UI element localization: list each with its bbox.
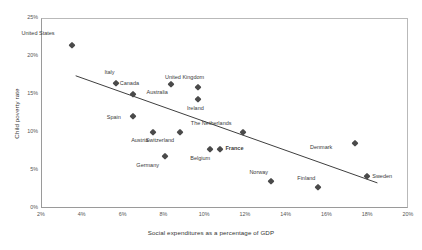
y-tick-label: 0% [30, 205, 38, 210]
y-tick-label: 25% [27, 15, 38, 20]
y-tick-label: 15% [27, 91, 38, 96]
data-point-label: Ireland [187, 106, 204, 112]
x-tick-label: 4% [78, 212, 86, 217]
data-point-label: France [225, 146, 243, 152]
scatter-chart: Child poverty rate 0%5%10%15%20%25% Unit… [0, 0, 422, 250]
data-point-label: Finland [297, 176, 315, 182]
data-point-label: Denmark [310, 145, 332, 151]
data-point-label: The Netherlands [191, 121, 232, 127]
data-point-label: Switzerland [146, 138, 174, 144]
x-axis-title: Social expenditures as a percentage of G… [0, 229, 422, 236]
y-tick-label: 5% [30, 167, 38, 172]
data-point-label: Belgium [190, 156, 210, 162]
x-tick-label: 20% [403, 212, 414, 217]
x-tick-label: 14% [280, 212, 291, 217]
data-point-label: Germany [136, 163, 159, 169]
data-point-label: Canada [120, 81, 139, 87]
data-point-label: United Kingdom [165, 75, 204, 81]
data-point-label: Sweden [372, 174, 392, 180]
x-tick-label: 18% [362, 212, 373, 217]
x-tick-label: 8% [159, 212, 167, 217]
x-tick-label: 12% [239, 212, 250, 217]
y-tick-label: 20% [27, 53, 38, 58]
x-tick-label: 2% [37, 212, 45, 217]
x-axis-ticks: 2%4%6%8%10%12%14%16%18%20% [0, 212, 422, 224]
data-point-label: Spain [107, 115, 121, 121]
data-point-label: United States [22, 31, 55, 37]
data-point-label: Italy [104, 70, 114, 76]
data-point-label: Norway [249, 170, 268, 176]
x-tick-label: 10% [199, 212, 210, 217]
y-tick-label: 10% [27, 129, 38, 134]
plot-area [41, 18, 408, 208]
data-point-label: Australia [146, 90, 167, 96]
x-tick-label: 6% [119, 212, 127, 217]
x-tick-label: 16% [321, 212, 332, 217]
